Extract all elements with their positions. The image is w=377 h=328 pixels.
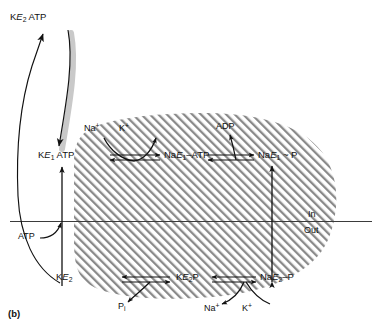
state-label-ke1-atp: KE1 ATP <box>38 150 74 160</box>
ligand-label-k-out-top: K+ <box>119 124 129 133</box>
ligand-label-k-in-bottom: K+ <box>242 304 252 313</box>
ligand-label-na-in: Na+ <box>84 124 100 133</box>
ligand-label-na-out-bottom: Na+ <box>204 304 220 313</box>
figure-label: (b) <box>8 308 20 319</box>
binding-curve-top-to-ke1 <box>59 30 73 149</box>
state-label-nae2-p: NaE2–P <box>260 272 294 282</box>
atp-input-arrow <box>40 223 61 238</box>
ligand-label-pi: Pi <box>118 302 126 311</box>
membrane-label-in: In <box>308 210 316 219</box>
membrane-blob <box>74 113 336 299</box>
figure-canvas: KE2 ATP KE1 ATP NaE1–ATP NaE1 ~ P NaE2–P… <box>0 0 377 328</box>
ligand-label-atp: ATP <box>18 232 35 241</box>
state-label-nae1-p: NaE1 ~ P <box>258 150 297 160</box>
membrane-label-out: Out <box>304 226 319 235</box>
state-label-ke2-p: KE2P <box>176 272 199 282</box>
state-label-nae1-atp: NaE1–ATP <box>164 150 209 160</box>
state-label-ke2: KE2 <box>56 272 72 282</box>
state-label-ke2-atp-top: KE2 ATP <box>10 12 46 22</box>
ligand-label-adp: ADP <box>216 122 235 131</box>
